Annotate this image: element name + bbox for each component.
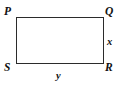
side-label-y: y xyxy=(56,71,61,82)
side-label-x: x xyxy=(107,37,112,48)
vertex-label-p: P xyxy=(4,6,11,18)
rectangle-shape xyxy=(16,17,104,64)
geometry-figure: P Q R S x y xyxy=(0,0,121,97)
vertex-label-q: Q xyxy=(105,6,113,18)
vertex-label-s: S xyxy=(4,62,10,74)
vertex-label-r: R xyxy=(105,62,113,74)
